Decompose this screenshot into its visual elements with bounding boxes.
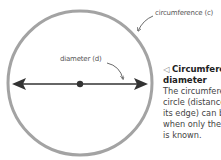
caption-title-line2: diameter (163, 75, 221, 86)
caption-body-line: its edge) can be found (163, 108, 221, 119)
caption: ◁ Circumference and diameter The circumf… (163, 77, 221, 154)
center-point (77, 81, 83, 87)
diameter-label: diameter (d) (60, 55, 101, 63)
circumference-pointer-arrow (138, 16, 153, 31)
caption-body-line: when only the diameter (163, 119, 221, 130)
caption-body-line: circle (distance around (163, 97, 221, 108)
caption-title-line1: ◁ Circumference and (163, 64, 221, 75)
triangle-pointer-icon: ◁ (163, 64, 169, 74)
caption-body-line: is known. (163, 130, 221, 141)
circumference-label: circumference (c) (155, 9, 213, 17)
caption-body-line: The circumference of a (163, 86, 221, 97)
diameter-pointer-arrow (107, 63, 123, 79)
